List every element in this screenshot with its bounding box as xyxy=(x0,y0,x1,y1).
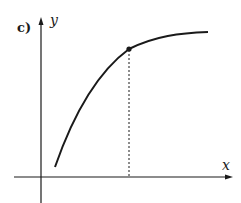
x-axis-label: x xyxy=(222,157,230,173)
x-axis-arrow-icon xyxy=(225,175,233,180)
marked-point xyxy=(126,46,131,51)
y-axis-arrow-icon xyxy=(39,17,44,25)
y-axis xyxy=(39,17,44,203)
x-axis xyxy=(14,175,233,180)
y-axis-label: y xyxy=(50,12,58,28)
curve xyxy=(55,32,208,167)
part-label: c) xyxy=(17,20,31,35)
diagram-canvas xyxy=(0,0,241,203)
